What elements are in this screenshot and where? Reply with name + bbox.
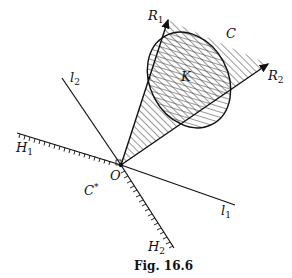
line-l2 [62, 78, 121, 165]
label-h2: H2 [147, 239, 165, 256]
halfplane-h2-boundary [121, 165, 174, 248]
label-k: K [180, 69, 192, 84]
label-l1: l1 [221, 203, 231, 220]
figure-caption: Fig. 16.6 [134, 259, 193, 273]
label-o: O [110, 168, 121, 183]
tangent-point [147, 76, 150, 79]
label-l2: l2 [70, 70, 80, 87]
label-c: C [226, 26, 236, 41]
label-r1: R1 [147, 8, 164, 25]
label-r2: R2 [267, 68, 284, 85]
halfplane-h2-ticks [121, 171, 173, 248]
label-c-star: C* [84, 182, 99, 198]
line-l1 [121, 165, 235, 205]
cone-diagram: R1 C K R2 l2 l1 H1 H2 O C* Fig. 16.6 [0, 0, 292, 278]
label-h1: H1 [15, 140, 33, 157]
